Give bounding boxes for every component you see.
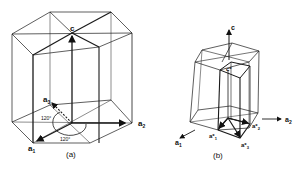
hexagonal-lattice-diagram: c a3 a2 a1 120° 120° (a) c bbox=[0, 0, 303, 170]
axis-a1star-b bbox=[219, 118, 228, 128]
label-a1-a: a1 bbox=[28, 144, 35, 154]
label-a3star-b: a*3 bbox=[241, 142, 250, 150]
angle-label-upper: 120° bbox=[41, 115, 51, 121]
label-c-a: c bbox=[70, 24, 75, 33]
label-a2star-b: a*2 bbox=[252, 123, 261, 131]
caption-b: (b) bbox=[213, 151, 223, 160]
figure-b-prism bbox=[180, 30, 281, 138]
label-a1star-b: a*1 bbox=[209, 133, 218, 141]
label-a2-b: a2 bbox=[285, 116, 292, 125]
label-a3-a: a3 bbox=[43, 95, 50, 105]
label-cstar-b: c* bbox=[226, 66, 232, 72]
axis-a1-b bbox=[180, 130, 195, 138]
label-a1-b: a1 bbox=[175, 139, 182, 148]
label-c-b: c bbox=[231, 24, 235, 31]
caption-a: (a) bbox=[66, 150, 76, 159]
angle-label-lower: 120° bbox=[60, 136, 70, 142]
label-a2-a: a2 bbox=[138, 119, 145, 129]
axis-a3-a bbox=[52, 103, 72, 123]
